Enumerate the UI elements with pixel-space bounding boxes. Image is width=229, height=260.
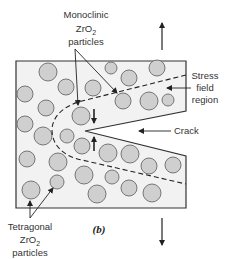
zro2-particle (50, 175, 64, 189)
zro2-particle (17, 116, 33, 132)
zro2-particle (85, 80, 101, 96)
zro2-particle (60, 129, 74, 143)
zro2-particle (162, 94, 174, 106)
zro2-particle (34, 127, 52, 145)
tetragonal-label-line3: particles (12, 247, 48, 258)
crack-label: Crack (174, 125, 199, 136)
stress-field-label-line1: Stress (192, 70, 219, 81)
zro2-particle (121, 180, 137, 196)
zro2-particle (39, 63, 57, 81)
zro2-particle (165, 157, 181, 173)
figure-label: (b) (93, 223, 106, 236)
tetragonal-label-line1: Tetragonal (8, 221, 52, 232)
zro2-particle (72, 107, 90, 125)
zro2-particle (19, 151, 35, 167)
zro2-particle (143, 184, 161, 202)
monoclinic-label-line2: ZrO2 (76, 23, 96, 36)
zro2-particle (105, 170, 119, 184)
stress-field-label-line3: region (192, 94, 218, 105)
zro2-particle (115, 93, 131, 109)
zro2-particle (74, 138, 90, 154)
transformation-toughening-diagram: Monoclinic ZrO2 particles Stress field r… (0, 0, 229, 260)
zro2-particle (22, 181, 40, 199)
zro2-particle (75, 166, 93, 184)
zro2-particle (88, 185, 106, 203)
zro2-particle (58, 79, 74, 95)
monoclinic-label-line1: Monoclinic (64, 9, 109, 20)
stress-field-label-line2: field (196, 82, 213, 93)
zro2-particle (140, 92, 158, 110)
zro2-particle (105, 62, 117, 74)
zro2-particle (38, 100, 54, 116)
zro2-particle (49, 153, 67, 171)
zro2-particle (141, 158, 157, 174)
tetragonal-label-line2: ZrO2 (20, 234, 40, 247)
zro2-particle (17, 86, 33, 102)
monoclinic-label-line3: particles (68, 36, 104, 47)
zro2-particle (99, 144, 117, 162)
zro2-particle (149, 60, 165, 76)
zro2-particle (121, 70, 137, 86)
zro2-particle (121, 145, 139, 163)
